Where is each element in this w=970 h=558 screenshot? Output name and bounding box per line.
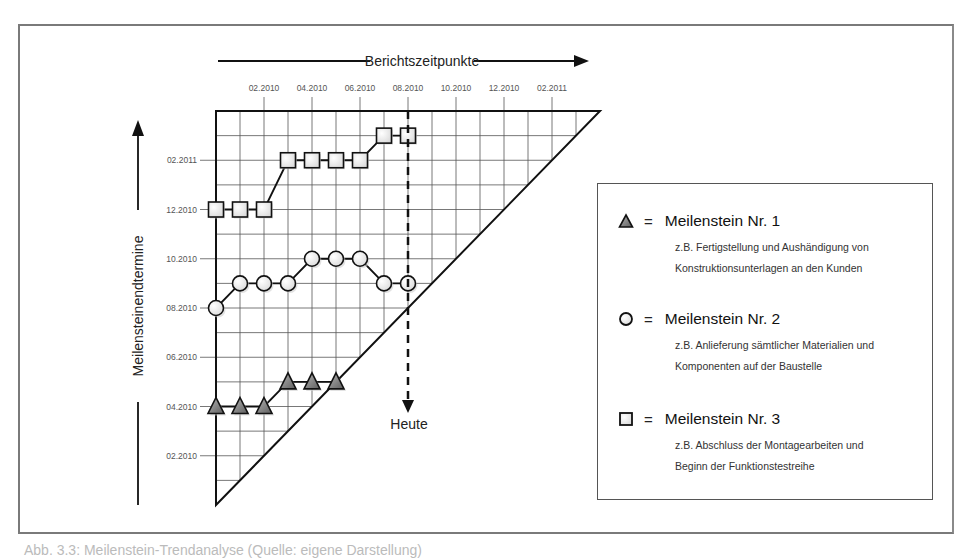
circle-marker-icon — [281, 276, 296, 291]
square-marker-icon — [209, 202, 224, 217]
square-marker-icon — [233, 202, 248, 217]
square-marker-icon — [305, 153, 320, 168]
series-layer — [208, 128, 418, 415]
y-axis-arrowhead-icon — [132, 120, 144, 136]
y-axis-title: Meilensteinendtermine — [130, 235, 146, 376]
square-icon — [618, 411, 634, 427]
circle-marker-icon — [209, 301, 224, 316]
today-label: Heute — [390, 416, 428, 432]
triangle-marker-icon — [208, 398, 224, 414]
x-tick-label: 08.2010 — [393, 83, 424, 93]
y-tick-label: 12.2010 — [166, 205, 197, 215]
y-tick-label: 10.2010 — [166, 254, 197, 264]
circle-marker-icon — [233, 276, 248, 291]
figure-caption: Abb. 3.3: Meilenstein-Trendanalyse (Quel… — [24, 542, 422, 558]
today-arrowhead-icon — [402, 400, 414, 413]
legend-description: z.B. Abschluss der Montagearbeiten und B… — [675, 435, 864, 477]
legend-title: Meilenstein Nr. 2 — [665, 310, 780, 328]
legend-description: z.B. Anlieferung sämtlicher Materialien … — [675, 335, 874, 377]
legend-box: = Meilenstein Nr. 1 z.B. Fertigstellung … — [597, 183, 933, 500]
legend-desc-line: z.B. Anlieferung sämtlicher Materialien … — [675, 335, 874, 356]
y-tick-label: 02.2011 — [167, 155, 197, 165]
y-tick-label: 02.2010 — [166, 451, 197, 461]
square-marker-icon — [353, 153, 368, 168]
circle-icon — [618, 311, 634, 327]
circle-marker-icon — [353, 251, 368, 266]
circle-marker-icon — [305, 251, 320, 266]
square-marker-icon — [257, 202, 272, 217]
x-tick-label: 12.2010 — [489, 83, 520, 93]
square-marker-icon — [377, 128, 392, 143]
triangle-icon — [618, 213, 634, 229]
legend-desc-line: Komponenten auf der Baustelle — [675, 356, 874, 377]
legend-item-milestone-2: = Meilenstein Nr. 2 z.B. Anlieferung säm… — [618, 308, 874, 377]
x-axis-title: Berichtszeitpunkte — [365, 53, 480, 69]
x-tick-label: 02.2011 — [537, 83, 567, 93]
legend-title: Meilenstein Nr. 1 — [665, 212, 780, 230]
triangle-marker-icon — [280, 373, 296, 389]
x-tick-label: 06.2010 — [345, 83, 376, 93]
legend-equals: = — [644, 411, 653, 428]
legend-title: Meilenstein Nr. 3 — [665, 410, 780, 428]
y-tick-label: 08.2010 — [166, 303, 197, 313]
x-axis-arrowhead-icon — [574, 55, 589, 67]
legend-desc-line: Beginn der Funktionstestreihe — [675, 456, 864, 477]
legend-description: z.B. Fertigstellung und Aushändigung von… — [675, 237, 869, 279]
y-tick-label: 06.2010 — [166, 352, 197, 362]
circle-marker-icon — [257, 276, 272, 291]
legend-equals: = — [644, 213, 653, 230]
x-tick-label: 02.2010 — [249, 83, 280, 93]
x-tick-label: 10.2010 — [441, 83, 472, 93]
legend-equals: = — [644, 311, 653, 328]
legend-item-milestone-3: = Meilenstein Nr. 3 z.B. Abschluss der M… — [618, 408, 864, 477]
legend-desc-line: z.B. Abschluss der Montagearbeiten und — [675, 435, 864, 456]
legend-desc-line: z.B. Fertigstellung und Aushändigung von — [675, 237, 869, 258]
axis-ticks: 02.201004.201006.201008.201010.201012.20… — [166, 83, 567, 461]
y-tick-label: 04.2010 — [166, 402, 197, 412]
square-marker-icon — [281, 153, 296, 168]
triangle-marker-icon — [232, 398, 248, 414]
x-tick-label: 04.2010 — [297, 83, 328, 93]
triangle-marker-icon — [304, 373, 320, 389]
square-marker-icon — [329, 153, 344, 168]
legend-item-milestone-1: = Meilenstein Nr. 1 z.B. Fertigstellung … — [618, 210, 869, 279]
legend-desc-line: Konstruktionsunterlagen an den Kunden — [675, 258, 869, 279]
circle-marker-icon — [329, 251, 344, 266]
circle-marker-icon — [377, 276, 392, 291]
